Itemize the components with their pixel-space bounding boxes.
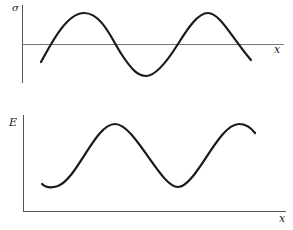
energy-curve bbox=[42, 124, 255, 187]
energy-x-label: x bbox=[279, 213, 285, 224]
energy-panel bbox=[23, 115, 286, 212]
stress-panel bbox=[22, 5, 284, 83]
stress-x-label: x bbox=[274, 44, 280, 55]
stress-y-label: σ bbox=[12, 3, 19, 13]
energy-y-label: E bbox=[9, 117, 17, 128]
diagram-canvas bbox=[0, 0, 293, 230]
